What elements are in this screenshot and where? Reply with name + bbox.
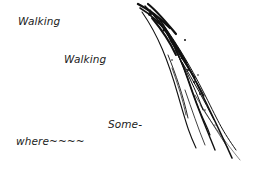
caption-walking-1: Walking	[18, 15, 60, 27]
caption-where: where~~~~	[16, 135, 85, 147]
caption-walking-2: Walking	[64, 53, 106, 65]
caption-some: Some-	[108, 118, 142, 130]
